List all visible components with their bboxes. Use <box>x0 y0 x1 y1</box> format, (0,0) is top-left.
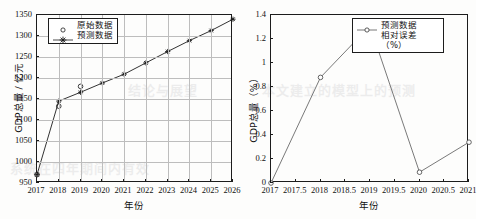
x-tick-label: 2020 <box>93 186 110 195</box>
x-tick <box>295 179 296 182</box>
gridline-vertical <box>146 15 147 181</box>
x-tick-label: 2021 <box>460 186 477 195</box>
x-tick <box>320 179 321 182</box>
x-tick <box>232 179 233 182</box>
x-tick-label: 2025 <box>202 186 219 195</box>
y-tick <box>270 182 273 183</box>
x-tick-label: 2020 <box>410 186 427 195</box>
gridline-horizontal <box>37 120 231 121</box>
data-point-marker <box>467 140 472 145</box>
x-tick-label: 2022 <box>136 186 153 195</box>
gridline-horizontal <box>37 141 231 142</box>
x-tick-label: 2020.5 <box>432 186 455 195</box>
y-tick <box>36 161 39 162</box>
gridline-vertical <box>168 15 169 181</box>
x-tick <box>468 179 469 182</box>
x-tick <box>210 179 211 182</box>
x-tick-label: 2017 <box>262 186 279 195</box>
x-tick <box>369 179 370 182</box>
y-tick <box>36 56 39 57</box>
chart-gdp-forecast: 2017201820192020202120222023202420252026… <box>0 0 238 219</box>
gridline-horizontal <box>37 78 231 79</box>
x-tick-label: 2019 <box>71 186 88 195</box>
y-tick-label: 0.2 <box>238 154 266 163</box>
y-tick-label: 950 <box>0 178 32 187</box>
x-tick <box>344 179 345 182</box>
x-tick <box>58 179 59 182</box>
x-tick-label: 2017 <box>28 186 45 195</box>
x-tick <box>443 179 444 182</box>
x-axis-title-error: 年份 <box>359 198 379 212</box>
circle-line-marker-icon <box>356 21 378 31</box>
y-tick <box>270 14 273 15</box>
gridline-vertical <box>189 15 190 181</box>
legend-gdp: 原始数据 预测数据 <box>48 18 118 44</box>
y-tick-label: 0 <box>238 178 266 187</box>
data-point-marker <box>318 75 323 80</box>
legend-error: 预测数据 相对误差 （%） <box>352 18 444 53</box>
y-tick-label: 1.4 <box>238 10 266 19</box>
y-tick <box>270 110 273 111</box>
x-axis-title-gdp: 年份 <box>124 198 144 212</box>
legend-label-relative-error-line3: （%） <box>381 41 439 51</box>
x-tick-label: 2018 <box>49 186 66 195</box>
gridline-horizontal <box>37 57 231 58</box>
x-tick <box>394 179 395 182</box>
x-tick-label: 2018.5 <box>333 186 356 195</box>
gridline-vertical <box>211 15 212 181</box>
y-tick <box>270 86 273 87</box>
y-tick-label: 1.2 <box>238 34 266 43</box>
y-tick <box>36 14 39 15</box>
open-circle-marker-icon <box>52 21 74 31</box>
gridline-horizontal <box>37 99 231 100</box>
y-tick <box>270 158 273 159</box>
x-tick-label: 2023 <box>158 186 175 195</box>
y-tick <box>270 134 273 135</box>
y-tick-label: 1050 <box>0 136 32 145</box>
y-tick <box>36 98 39 99</box>
y-tick-label: 1350 <box>0 10 32 19</box>
x-tick <box>145 179 146 182</box>
y-tick-label: 1250 <box>0 52 32 61</box>
data-point-marker <box>34 172 39 177</box>
y-tick <box>270 62 273 63</box>
y-tick-label: 1 <box>238 58 266 67</box>
x-tick-label: 2017.5 <box>283 186 306 195</box>
x-tick-label: 2024 <box>180 186 197 195</box>
data-point-marker <box>417 170 422 175</box>
star-line-marker-icon <box>52 31 74 41</box>
x-tick <box>101 179 102 182</box>
x-tick-label: 2021 <box>115 186 132 195</box>
y-tick <box>36 35 39 36</box>
x-tick-label: 2019.5 <box>382 186 405 195</box>
data-point-marker <box>230 17 235 22</box>
gridline-horizontal <box>37 162 231 163</box>
x-tick-label: 2018 <box>311 186 328 195</box>
chart-relative-error: 20172017.520182018.520192019.520202020.5… <box>238 0 476 219</box>
y-tick <box>36 140 39 141</box>
x-tick <box>123 179 124 182</box>
y-tick <box>36 77 39 78</box>
y-axis-title-gdp: GDP总量 / 亿元 <box>11 63 25 133</box>
x-tick <box>188 179 189 182</box>
y-tick <box>270 38 273 39</box>
x-tick <box>80 179 81 182</box>
gridline-vertical <box>124 15 125 181</box>
legend-label-predicted: 预测数据 <box>77 31 113 41</box>
x-tick-label: 2019 <box>361 186 378 195</box>
y-tick <box>36 119 39 120</box>
y-axis-title-error: GDP总量（%） <box>246 73 260 142</box>
x-tick <box>419 179 420 182</box>
y-tick <box>36 182 39 183</box>
x-tick <box>167 179 168 182</box>
legend-item-predicted: 预测数据 <box>52 31 113 41</box>
y-tick-label: 1000 <box>0 157 32 166</box>
y-tick-label: 1300 <box>0 31 32 40</box>
